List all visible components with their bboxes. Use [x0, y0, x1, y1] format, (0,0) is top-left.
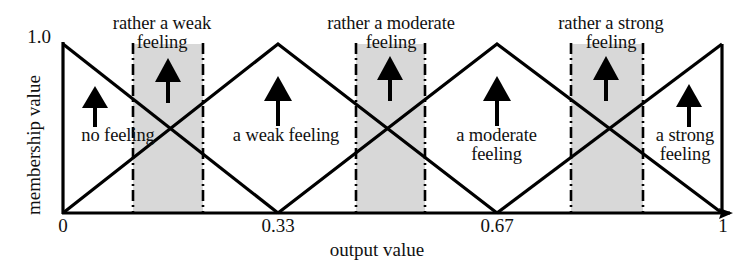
top-label-rather-moderate-line1: rather a moderate: [296, 14, 486, 33]
x-tick-label-1: 1: [707, 216, 739, 236]
top-label-rather-strong-line1: rather a strong: [525, 14, 697, 33]
arrow-marker-no-feeling: [82, 86, 108, 127]
top-label-rather-strong-line2: feeling: [525, 33, 697, 52]
top-label-rather-moderate-line2: feeling: [296, 33, 486, 52]
top-label-rather-moderate: rather a moderate feeling: [296, 14, 486, 52]
inner-label-no-feeling-line1: no feeling: [68, 126, 168, 145]
membership-function-figure: rather a weak feeling rather a moderate …: [0, 0, 745, 271]
y-axis-title: membership value: [24, 75, 44, 215]
inner-label-a-weak-feeling: a weak feeling: [216, 126, 356, 145]
inner-label-a-moderate-feeling-line2: feeling: [434, 145, 559, 164]
arrow-marker-a-moderate: [483, 76, 511, 126]
x-tick-label-0.33: 0.33: [243, 216, 313, 236]
inner-label-a-strong-feeling-line1: a strong: [645, 126, 725, 145]
top-label-rather-strong: rather a strong feeling: [525, 14, 697, 52]
x-tick-label-0: 0: [47, 216, 79, 236]
inner-label-a-strong-feeling-line2: feeling: [645, 145, 725, 164]
inner-label-a-weak-feeling-line1: a weak feeling: [216, 126, 356, 145]
inner-label-a-moderate-feeling-line1: a moderate: [434, 126, 559, 145]
inner-label-no-feeling: no feeling: [68, 126, 168, 145]
y-tick-label-1.0: 1.0: [13, 27, 65, 47]
arrow-marker-a-strong: [676, 84, 702, 127]
top-label-rather-weak: rather a weak feeling: [78, 14, 246, 52]
top-label-rather-weak-line1: rather a weak: [78, 14, 246, 33]
x-axis-title: output value: [312, 240, 442, 260]
top-label-rather-weak-line2: feeling: [78, 33, 246, 52]
inner-label-a-strong-feeling: a strong feeling: [645, 126, 725, 164]
arrow-marker-a-weak: [264, 76, 292, 126]
inner-label-a-moderate-feeling: a moderate feeling: [434, 126, 559, 164]
x-tick-label-0.67: 0.67: [462, 216, 532, 236]
